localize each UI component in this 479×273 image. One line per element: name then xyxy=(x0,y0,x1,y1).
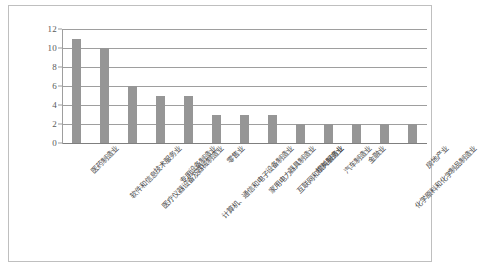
y-axis-tick-label: 10 xyxy=(13,44,57,53)
bar[interactable] xyxy=(408,124,417,143)
category-label: 零售业 xyxy=(227,145,248,166)
category-label: 专用设备制造业 xyxy=(179,145,220,186)
gridline-0 xyxy=(62,143,427,144)
y-axis-tick-label: 0 xyxy=(13,139,57,148)
y-axis-tick-label: 8 xyxy=(13,63,57,72)
category-label: 饮料制造业 xyxy=(315,145,346,176)
bars-layer xyxy=(62,29,427,143)
bar[interactable] xyxy=(352,124,361,143)
bar[interactable] xyxy=(128,86,137,143)
y-axis-tick-label: 4 xyxy=(13,101,57,110)
bar[interactable] xyxy=(156,96,165,144)
bar[interactable] xyxy=(72,39,81,144)
y-axis-tick-label: 2 xyxy=(13,120,57,129)
chart-frame: 024681012 医药制造业软件和信息技术服务业医疗仪器设备及器械制造业专用设… xyxy=(8,5,432,262)
y-axis-labels: 024681012 xyxy=(9,29,57,143)
bar[interactable] xyxy=(296,124,305,143)
bar[interactable] xyxy=(268,115,277,144)
bar[interactable] xyxy=(240,115,249,144)
bar[interactable] xyxy=(184,96,193,144)
y-axis-tick-label: 12 xyxy=(13,25,57,34)
category-label: 医药制造业 xyxy=(90,145,121,176)
bar[interactable] xyxy=(212,115,221,144)
bar[interactable] xyxy=(324,124,333,143)
category-axis-labels: 医药制造业软件和信息技术服务业医疗仪器设备及器械制造业专用设备制造业计算机、通信… xyxy=(62,145,427,260)
y-axis-tick-label: 6 xyxy=(13,82,57,91)
bar[interactable] xyxy=(380,124,389,143)
category-label: 房地产业 xyxy=(425,145,451,171)
bar[interactable] xyxy=(100,48,109,143)
